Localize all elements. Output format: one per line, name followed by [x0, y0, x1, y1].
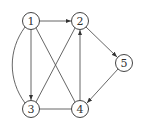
- node-label: 1: [28, 15, 35, 28]
- node-5: 5: [116, 55, 133, 72]
- edge-2-5: [86, 27, 117, 57]
- node-1: 1: [23, 13, 40, 30]
- node-4: 4: [72, 101, 89, 118]
- graph-diagram: 1 2 3 4 5: [0, 0, 143, 124]
- edge-5-4: [87, 69, 118, 103]
- node-label: 2: [77, 15, 84, 28]
- node-label: 3: [28, 103, 35, 116]
- edges: [12, 21, 118, 109]
- node-2: 2: [72, 13, 89, 30]
- node-3: 3: [23, 101, 40, 118]
- node-label: 4: [77, 103, 84, 116]
- node-label: 5: [121, 57, 128, 70]
- edge-1-3-curved: [12, 27, 25, 103]
